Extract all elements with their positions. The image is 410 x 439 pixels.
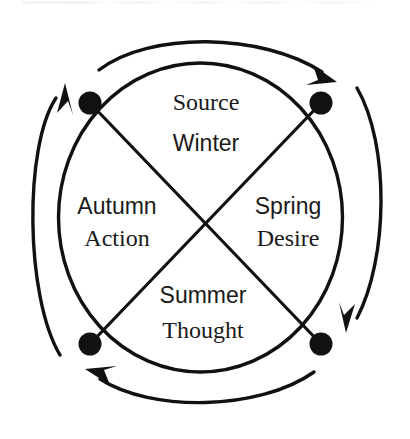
quadrant-left-concept: Action <box>84 225 149 251</box>
rotation-arrow-right <box>339 88 381 333</box>
quadrant-right-season: Spring <box>255 193 321 219</box>
node-dot-bottom-left <box>79 333 102 356</box>
arrowhead-top <box>306 65 337 85</box>
rotation-arrow-left <box>33 83 73 355</box>
arrowhead-bottom <box>85 366 117 385</box>
diagram-canvas: Source Winter Spring Desire Summer Thoug… <box>0 0 410 439</box>
quadrant-right-concept: Desire <box>257 225 320 251</box>
node-dot-top-right <box>310 92 333 115</box>
node-dot-bottom-right <box>310 333 333 356</box>
quadrant-left-season: Autumn <box>77 193 156 219</box>
arrowhead-left <box>57 83 73 115</box>
quadrant-bottom-season: Summer <box>160 282 247 308</box>
quadrant-bottom-concept: Thought <box>162 317 244 343</box>
node-dot-top-left <box>79 92 102 115</box>
quadrant-top-concept: Source <box>173 89 240 115</box>
quadrant-top-season: Winter <box>173 130 240 156</box>
arrowhead-right <box>339 302 355 333</box>
cycle-diagram: Source Winter Spring Desire Summer Thoug… <box>0 0 410 439</box>
